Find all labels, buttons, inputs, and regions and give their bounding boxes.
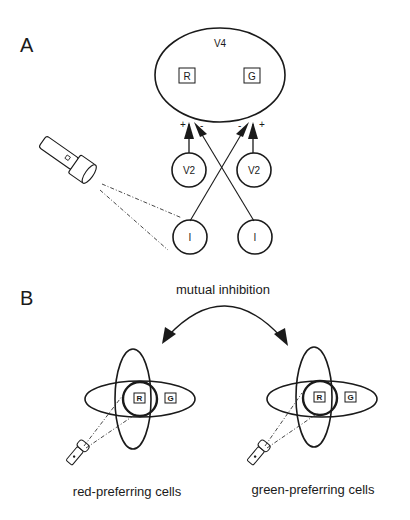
i-node-right: I	[238, 220, 272, 254]
cell-group-green: R G green-preferring cells	[245, 347, 377, 497]
sign-plus-left: +	[180, 119, 186, 130]
cell-label: R	[183, 71, 190, 82]
v2-node-right: V2	[237, 153, 271, 187]
node-label: V2	[248, 165, 261, 176]
mutual-inhibition-label: mutual inhibition	[176, 282, 270, 297]
panel-a: A V4 R G + +	[20, 28, 285, 254]
arrowhead-icon	[248, 122, 258, 139]
v4-area: V4 R G	[155, 28, 285, 122]
cell-g: G	[345, 392, 356, 402]
panel-a-label: A	[20, 34, 34, 56]
i-node-left: I	[173, 220, 207, 254]
svg-text:R: R	[317, 393, 323, 402]
cell-g: G	[165, 393, 176, 403]
sign-minus-right: -	[238, 120, 241, 131]
sign-minus-left: -	[200, 120, 203, 131]
mutual-inhibition-arrow	[162, 306, 288, 346]
caption-green-preferring: green-preferring cells	[252, 482, 375, 497]
caption-red-preferring: red-preferring cells	[73, 484, 182, 499]
svg-text:G: G	[347, 393, 353, 402]
v2-node-left: V2	[172, 153, 206, 187]
cell-label: G	[248, 71, 256, 82]
svg-text:G: G	[167, 394, 173, 403]
spotlight-beam	[100, 184, 182, 250]
node-label: I	[254, 232, 257, 243]
arrow-i-right-to-r	[198, 128, 254, 221]
arrowhead-icon	[274, 328, 288, 346]
panel-b: B mutual inhibition R G	[20, 282, 377, 499]
cell-group-red: R G red-preferring cells	[64, 349, 195, 499]
inhibitory-arrows: - -	[190, 120, 254, 221]
arrow-i-left-to-g	[190, 128, 245, 221]
v4-cell-g: G	[244, 68, 260, 83]
v4-label: V4	[214, 38, 227, 49]
node-label: V2	[183, 165, 196, 176]
vertical-rf	[115, 349, 151, 449]
v4-cell-r: R	[179, 68, 195, 83]
svg-text:R: R	[137, 394, 143, 403]
cell-r: R	[134, 393, 145, 403]
flashlight-icon	[36, 132, 99, 185]
figure: A V4 R G + +	[0, 0, 410, 520]
excitatory-arrows: + +	[180, 119, 265, 153]
node-label: I	[189, 232, 192, 243]
cell-r: R	[314, 392, 325, 402]
panel-b-label: B	[20, 287, 33, 309]
sign-plus-right: +	[259, 119, 265, 130]
